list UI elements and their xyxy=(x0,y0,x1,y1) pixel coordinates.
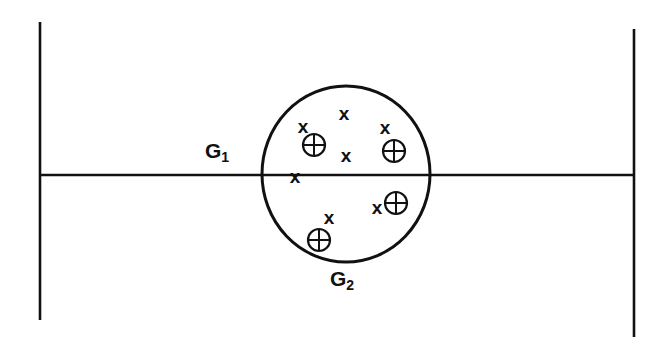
x-marker: x xyxy=(380,117,391,138)
circled-cross-marker xyxy=(303,134,325,156)
group-label-g1-base: G xyxy=(205,139,221,162)
group-label-g2: G2 xyxy=(330,268,354,292)
x-marker: x xyxy=(372,197,383,218)
x-marker: x xyxy=(324,207,335,228)
circled-cross-marker xyxy=(385,192,407,214)
group-label-g1-subscript: 1 xyxy=(221,149,229,165)
x-marker: x xyxy=(339,103,350,124)
diagram-canvas: x x x x x x x G1 G2 xyxy=(0,0,665,337)
circled-cross-marker xyxy=(383,140,405,162)
x-marker: x xyxy=(341,145,352,166)
group-label-g2-base: G xyxy=(330,267,346,290)
group-label-g2-subscript: 2 xyxy=(346,277,354,293)
group-label-g1: G1 xyxy=(205,140,229,164)
x-marker: x xyxy=(290,166,301,187)
x-marker: x xyxy=(298,116,309,137)
circled-cross-marker xyxy=(308,229,330,251)
